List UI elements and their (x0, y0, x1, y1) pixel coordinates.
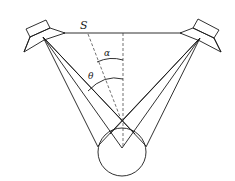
listener-head (98, 128, 146, 176)
right-speaker-icon (180, 19, 221, 52)
speaker-diagram: S α θ (0, 0, 235, 181)
left-speaker-icon (24, 20, 65, 52)
label-alpha: α (104, 48, 110, 58)
label-s: S (80, 19, 88, 32)
alpha-arc (97, 58, 123, 62)
right-rays (98, 38, 200, 148)
label-theta: θ (88, 71, 94, 81)
left-rays (43, 37, 146, 148)
